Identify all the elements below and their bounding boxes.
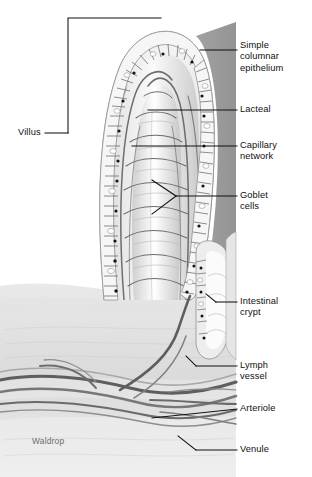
label-intestinal-crypt: Intestinal crypt xyxy=(240,296,278,319)
artist-signature: Waldrop xyxy=(32,436,64,446)
label-lymph-vessel: Lymph vessel xyxy=(240,360,268,383)
label-simple-columnar-epithelium: Simple columnar epithelium xyxy=(240,40,283,74)
label-capillary-network: Capillary network xyxy=(240,140,277,163)
label-lacteal: Lacteal xyxy=(240,104,271,115)
adjacent-mucosa xyxy=(226,232,236,360)
label-arteriole: Arteriole xyxy=(240,403,276,414)
label-venule: Venule xyxy=(240,444,269,455)
label-villus: Villus xyxy=(18,127,41,138)
intestinal-villus-diagram: Villus Simple columnar epithelium Lactea… xyxy=(0,0,312,477)
label-goblet-cells: Goblet cells xyxy=(240,190,268,213)
